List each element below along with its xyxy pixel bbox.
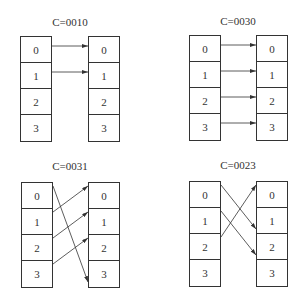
mapping-arrows	[0, 152, 154, 304]
mapping-arrow	[221, 185, 256, 237]
mapping-arrow	[53, 186, 88, 212]
mapping-arrows	[0, 0, 154, 152]
mapping-arrow	[221, 211, 256, 255]
panel-c0010: C=0010 0 1 2 3 0 1 2 3	[0, 0, 154, 152]
mapping-arrow	[53, 238, 88, 264]
mapping-arrows	[154, 152, 308, 304]
panel-c0031: C=0031 0 1 2 3 0 1 2 3	[0, 152, 154, 304]
mapping-arrows	[154, 0, 308, 152]
mapping-arrow	[221, 185, 256, 229]
panel-c0030: C=0030 0 1 2 3 0 1 2 3	[154, 0, 308, 152]
panel-c0023: C=0023 0 1 2 3 0 1 2 3	[154, 152, 308, 304]
